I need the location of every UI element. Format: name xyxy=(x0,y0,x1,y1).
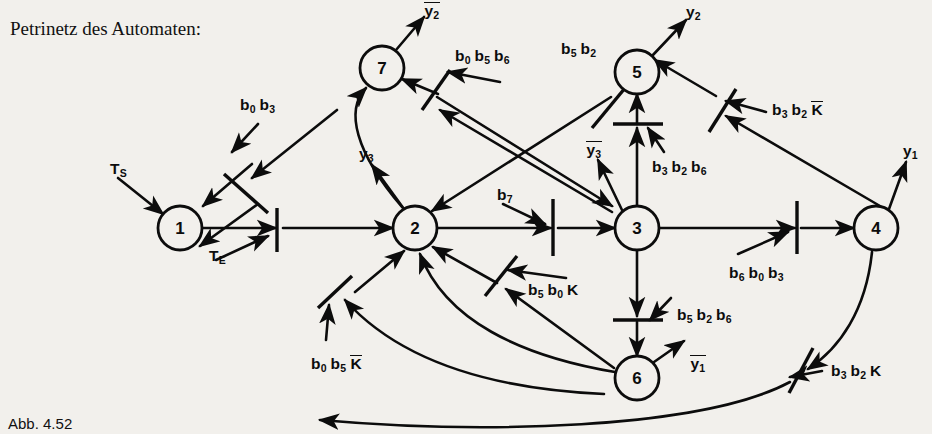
label-b0-b3: b0b3 xyxy=(240,96,275,115)
arc-in-barC-2 xyxy=(506,289,614,368)
arc-in-barC-1 xyxy=(508,270,566,278)
arc-barE-to-p6curve xyxy=(320,382,790,427)
label-b5-b2-b6: b5b2b6 xyxy=(677,306,732,325)
arcs-layer xyxy=(118,17,906,427)
label-b3-b2-K: b3b2K xyxy=(831,362,881,381)
bar-b0b3 xyxy=(224,174,268,213)
arc-p4-out-y1 xyxy=(889,162,906,209)
start-signal: TS xyxy=(110,160,127,179)
arc-p2-out-y3 xyxy=(372,165,404,209)
arc-p7-loop-p1 xyxy=(200,204,258,246)
enable-signal: TE xyxy=(209,247,226,266)
petri-net-figure: Petrinetz des Automaten: 1234567TSTEy2y2… xyxy=(0,0,932,434)
label-b7: b7 xyxy=(497,186,513,205)
label-b3-b2-b6: b3b2b6 xyxy=(652,158,707,177)
figure-caption: Abb. 4.52 xyxy=(8,415,72,432)
arc-diag-5to2 xyxy=(432,97,611,211)
arc-p7-out-y2 xyxy=(396,17,424,50)
arc-p3-out-y3b xyxy=(598,160,622,210)
bar-b5b0K xyxy=(485,256,517,296)
bar-b3b2K xyxy=(789,348,813,393)
label-b0-b5-Kbar: b0b5K xyxy=(311,355,362,374)
arc-in-barB-1 xyxy=(726,101,766,112)
arc-b3b2K-in xyxy=(790,371,822,377)
arc-in-barD-2 xyxy=(345,300,604,394)
arc-b6b0b3-in xyxy=(738,232,788,254)
arc-p4-curve-to-barE xyxy=(808,252,872,369)
label-b3-b2-Kbar: b3b2K xyxy=(772,101,823,120)
arc-b7-to-bar7 xyxy=(503,204,545,224)
y1-output: y1 xyxy=(903,142,918,161)
arc-b0b3-in xyxy=(232,124,258,152)
arc-in-barA-2 xyxy=(440,110,612,212)
label-b0-b5-b6: b0b5b6 xyxy=(455,47,510,66)
arc-far-to-b0b3 xyxy=(252,110,337,178)
y2-bar-output: y2 xyxy=(424,2,440,21)
y3-output: y3 xyxy=(359,145,374,164)
place-label-4: 4 xyxy=(871,219,880,239)
arc-ts-to-p1 xyxy=(118,178,163,214)
arc-barC-to-p2 xyxy=(433,247,497,283)
arc-barA-to-p7 xyxy=(402,79,438,94)
arc-barD-to-p2 xyxy=(355,251,404,292)
arc-in-barD-1 xyxy=(326,305,329,340)
label-b5-b2: b5b2 xyxy=(561,40,596,59)
place-label-2: 2 xyxy=(410,219,419,239)
place-label-3: 3 xyxy=(632,219,641,239)
arc-b0b3-down xyxy=(203,164,252,206)
place-label-7: 7 xyxy=(377,59,386,79)
arc-p5-out-y2 xyxy=(652,20,686,56)
place-label-6: 6 xyxy=(632,369,641,389)
arc-b5b2b6-in xyxy=(650,298,671,320)
arc-barB-to-p5 xyxy=(655,60,716,96)
place-label-1: 1 xyxy=(175,219,184,239)
y2-output: y2 xyxy=(686,3,701,22)
label-b6-b0-b3: b6b0b3 xyxy=(729,264,784,283)
arc-p6-out-y1b xyxy=(654,341,684,362)
arc-in-barA-1 xyxy=(448,72,500,82)
place-label-5: 5 xyxy=(632,63,641,83)
arc-b3b2b6-in xyxy=(648,128,664,152)
y1-bar-output: y1 xyxy=(690,355,706,374)
arc-in-barB-2 xyxy=(726,116,880,206)
label-b5-b0-K: b5b0K xyxy=(528,281,578,300)
y3-bar-output: y3 xyxy=(586,141,602,160)
